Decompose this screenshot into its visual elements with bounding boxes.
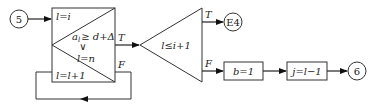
decision-label: l≤i+1 bbox=[161, 40, 191, 51]
loop-increment-label: l=l+1 bbox=[56, 70, 86, 81]
loop-init-label: l=i bbox=[56, 11, 71, 22]
or-symbol: ∨ bbox=[79, 41, 86, 52]
start-connector: 5 bbox=[10, 10, 28, 28]
loopback-arrowhead-icon bbox=[80, 96, 88, 102]
loop-true-label: T bbox=[118, 32, 126, 43]
assign-j-label: j=l−1 bbox=[290, 66, 321, 77]
start-connector-label: 5 bbox=[16, 14, 22, 25]
loop-false-label: F bbox=[117, 59, 126, 70]
decision-true-label: T bbox=[205, 9, 213, 20]
end-connector: 6 bbox=[348, 62, 366, 80]
exit-connector-e4: E4 bbox=[224, 13, 242, 31]
exit-connector-label: E4 bbox=[226, 17, 240, 28]
assign-b-label: b=1 bbox=[233, 66, 254, 77]
assign-b-box: b=1 bbox=[224, 62, 263, 80]
loop-box: l=i al≥ d+Δ ∨ l=n l=l+1 bbox=[52, 8, 115, 82]
loop-condition-bottom: l=n bbox=[77, 53, 95, 64]
assign-j-box: j=l−1 bbox=[287, 62, 327, 80]
flowchart-canvas: 5 l=i al≥ d+Δ ∨ l=n l=l+1 T F l≤i+1 T E4… bbox=[0, 0, 378, 108]
end-connector-label: 6 bbox=[354, 66, 360, 77]
decision-node: l≤i+1 bbox=[140, 8, 202, 82]
decision-false-label: F bbox=[204, 58, 213, 69]
